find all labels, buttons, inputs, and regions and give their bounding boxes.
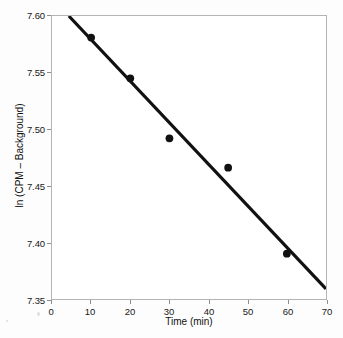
x-tick-mark (90, 300, 91, 304)
linear-fit-line (69, 16, 326, 289)
plot-canvas (52, 16, 326, 299)
y-tick-label: 7.35 (14, 295, 45, 306)
x-tick-mark (51, 300, 52, 304)
data-point (87, 34, 95, 42)
scan-artifact (37, 312, 40, 316)
chart-figure: 7.60 7.55 7.50 7.45 7.40 7.35 0 10 20 30… (0, 0, 343, 338)
x-axis-title: Time (min) (51, 316, 327, 327)
x-tick-mark (130, 300, 131, 304)
data-point (126, 74, 134, 82)
data-point (224, 164, 232, 172)
x-tick-mark (248, 300, 249, 304)
y-tick-label: 7.60 (14, 10, 45, 21)
scan-artifact (6, 320, 8, 322)
x-tick-mark (327, 300, 328, 304)
x-tick-mark (209, 300, 210, 304)
data-point (283, 250, 291, 258)
x-tick-mark (169, 300, 170, 304)
y-axis-title: ln (CPM – Background) (14, 71, 25, 241)
plot-area (51, 15, 327, 300)
data-point (166, 134, 174, 142)
x-tick-mark (288, 300, 289, 304)
